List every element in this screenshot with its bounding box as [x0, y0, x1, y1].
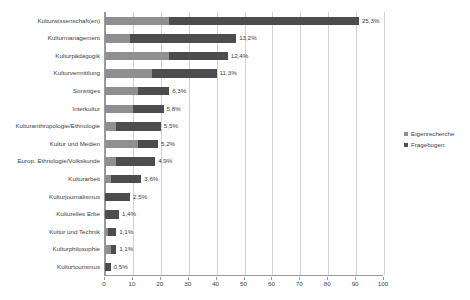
bar-row: Kulturanthropologie/Ethnologie5,5%: [105, 118, 383, 136]
bar-segment-eigenrecherche: [105, 105, 133, 114]
bar-segment-fragebogen: [169, 52, 228, 61]
category-label: Kulturjournalismus: [49, 194, 105, 200]
bar-value-label: 12,4%: [231, 53, 249, 59]
bar-segment-fragebogen: [105, 193, 130, 202]
stacked-bar: [105, 34, 236, 43]
chart-legend: Eigenrecherche Fragebogen: [404, 131, 454, 148]
stacked-bar: [105, 175, 141, 184]
stacked-bar: [105, 245, 116, 254]
x-tick-label: 80: [324, 281, 331, 287]
bar-value-label: 1,4%: [122, 211, 136, 217]
bar-value-label: 25,3%: [362, 18, 380, 24]
bar-value-label: 2,5%: [133, 194, 147, 200]
x-tick-label: 70: [296, 281, 303, 287]
bar-value-label: 0,5%: [114, 264, 128, 270]
bar-row: Kulturwissenschaft(en)25,3%: [105, 12, 383, 30]
gridline: [384, 12, 385, 275]
bar-value-label: 5,2%: [161, 141, 175, 147]
category-label: Europ. Ethnologie/Volkskunde: [17, 158, 105, 164]
bar-row: Kulturvermittlung11,3%: [105, 65, 383, 83]
x-tick-label: 100: [378, 281, 388, 287]
bar-row: Kulturelles Erbe1,4%: [105, 206, 383, 224]
bar-segment-fragebogen: [169, 17, 359, 26]
category-label: Sonstiges: [73, 88, 105, 94]
stacked-bar: [105, 228, 116, 237]
stacked-bar: [105, 52, 228, 61]
bar-segment-fragebogen: [108, 228, 116, 237]
bar-segment-fragebogen: [138, 87, 169, 96]
bar-row: Kulturjournalismus2,5%: [105, 188, 383, 206]
category-label: Kultur und Medien: [50, 141, 105, 147]
stacked-bar: [105, 193, 130, 202]
bar-value-label: 6,3%: [172, 88, 186, 94]
stacked-bar: [105, 105, 164, 114]
bar-value-label: 3,6%: [144, 176, 158, 182]
x-tick-label: 10: [128, 281, 135, 287]
x-tick-label: 90: [352, 281, 359, 287]
bar-segment-fragebogen: [105, 210, 119, 219]
stacked-bar: [105, 210, 119, 219]
stacked-bar: [105, 157, 155, 166]
category-label: Interkultur: [72, 106, 105, 112]
stacked-bar: [105, 140, 158, 149]
category-label: Kulturwissenschaft(en): [37, 18, 105, 24]
x-tick-label: 0: [102, 281, 105, 287]
bar-row: Kulturtourismus0,5%: [105, 258, 383, 276]
bar-segment-eigenrecherche: [105, 140, 138, 149]
legend-item-eigenrecherche: Eigenrecherche: [404, 131, 454, 137]
category-label: Kulturtourismus: [57, 264, 105, 270]
plot-area: Kulturwissenschaft(en)25,3%Kulturmanagem…: [104, 12, 383, 276]
bar-row: Kulturphilosophie1,1%: [105, 241, 383, 259]
x-tick-label: 60: [268, 281, 275, 287]
bar-segment-eigenrecherche: [105, 157, 116, 166]
category-label: Kulturphilosophie: [53, 246, 105, 252]
x-axis: 0102030405060708090100: [104, 277, 383, 293]
category-label: Kulturarbeit: [68, 176, 105, 182]
legend-swatch-icon: [404, 132, 408, 136]
x-tick-label: 50: [240, 281, 247, 287]
bar-value-label: 1,1%: [119, 246, 133, 252]
bar-segment-eigenrecherche: [105, 17, 169, 26]
bar-value-label: 4,9%: [158, 158, 172, 164]
bar-segment-fragebogen: [116, 157, 155, 166]
category-label: Kulturpädagogik: [55, 53, 105, 59]
category-label: Kulturelles Erbe: [56, 211, 105, 217]
stacked-bar: [105, 87, 169, 96]
bar-segment-fragebogen: [111, 175, 142, 184]
bar-value-label: 5,5%: [164, 123, 178, 129]
bar-row: Europ. Ethnologie/Volkskunde4,9%: [105, 153, 383, 171]
stacked-bar: [105, 122, 161, 131]
bar-segment-fragebogen: [105, 263, 111, 272]
bar-rows: Kulturwissenschaft(en)25,3%Kulturmanagem…: [105, 12, 383, 275]
bar-segment-fragebogen: [130, 34, 236, 43]
bar-row: Kulturmanagement13,2%: [105, 30, 383, 48]
bar-chart: Kulturwissenschaft(en)25,3%Kulturmanagem…: [0, 0, 470, 300]
x-tick-label: 20: [156, 281, 163, 287]
category-label: Kulturanthropologie/Ethnologie: [15, 123, 105, 129]
bar-segment-fragebogen: [116, 122, 161, 131]
bar-row: Kultur und Technik1,1%: [105, 223, 383, 241]
bar-segment-eigenrecherche: [105, 122, 116, 131]
bar-segment-eigenrecherche: [105, 69, 152, 78]
bar-row: Interkultur5,8%: [105, 100, 383, 118]
bar-segment-fragebogen: [152, 69, 216, 78]
bar-row: Kultur und Medien5,2%: [105, 135, 383, 153]
x-tick-label: 30: [184, 281, 191, 287]
category-label: Kultur und Technik: [49, 229, 105, 235]
legend-label: Eigenrecherche: [411, 131, 454, 137]
bar-segment-eigenrecherche: [105, 87, 138, 96]
bar-value-label: 11,3%: [220, 70, 237, 76]
bar-value-label: 1,1%: [119, 229, 133, 235]
bar-value-label: 5,8%: [167, 106, 181, 112]
bar-row: Sonstiges6,3%: [105, 82, 383, 100]
legend-item-fragebogen: Fragebogen: [404, 142, 454, 148]
bar-row: Kulturarbeit3,6%: [105, 170, 383, 188]
category-label: Kulturvermittlung: [54, 70, 105, 76]
bar-segment-fragebogen: [133, 105, 164, 114]
bar-segment-eigenrecherche: [105, 34, 130, 43]
legend-label: Fragebogen: [411, 142, 444, 148]
category-label: Kulturmanagement: [48, 35, 105, 41]
bar-row: Kulturpädagogik12,4%: [105, 47, 383, 65]
legend-swatch-icon: [404, 143, 408, 147]
bar-value-label: 13,2%: [239, 35, 257, 41]
